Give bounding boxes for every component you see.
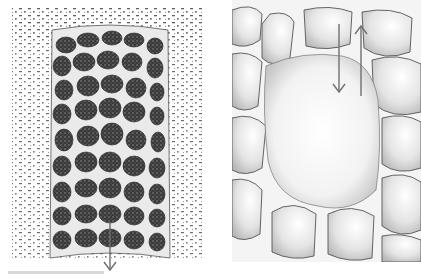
caption-strip — [8, 271, 104, 274]
cell-column-drawing — [0, 0, 210, 279]
right-illustration-panel — [232, 0, 421, 262]
cell-closeup-drawing — [232, 0, 421, 262]
left-illustration-panel — [0, 0, 210, 279]
